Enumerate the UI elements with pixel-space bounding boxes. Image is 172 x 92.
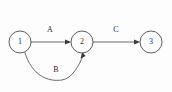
edge-b-label: B [53, 65, 58, 74]
diagram-canvas: A B C 1 2 3 [0, 0, 172, 92]
node-3-label: 3 [149, 37, 153, 46]
node-1-label: 1 [18, 37, 22, 46]
edge-b: B [25, 52, 86, 81]
edge-a: A [31, 25, 71, 45]
node-2[interactable]: 2 [71, 31, 93, 53]
edge-c: C [93, 25, 140, 45]
edge-a-label: A [47, 25, 53, 34]
node-1[interactable]: 1 [9, 31, 31, 53]
edge-c-label: C [113, 25, 118, 34]
edge-a-arrowhead-icon [65, 39, 71, 44]
edge-c-arrowhead-icon [134, 39, 140, 44]
node-2-label: 2 [80, 37, 84, 46]
directed-graph: A B C 1 2 3 [0, 0, 172, 92]
node-3[interactable]: 3 [140, 31, 162, 53]
